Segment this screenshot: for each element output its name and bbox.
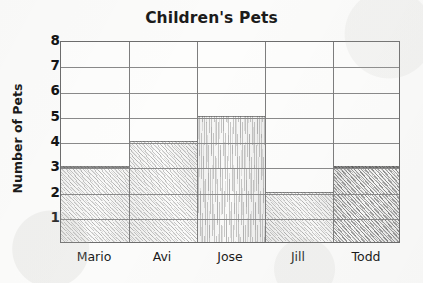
gridline-x-2 (197, 42, 198, 242)
gridline-y-6 (61, 93, 399, 94)
y-tick-2: 2 (26, 184, 60, 200)
y-tick-1: 1 (26, 209, 60, 225)
x-tick-label-mario: Mario (60, 249, 128, 264)
gridline-x-3 (265, 42, 266, 242)
bar-jill[interactable] (265, 192, 333, 243)
y-tick-5: 5 (26, 108, 60, 124)
bar-todd-shade (333, 166, 400, 242)
x-tick-label-jill: Jill (264, 249, 332, 264)
y-tick-7: 7 (26, 57, 60, 73)
bar-jose[interactable] (197, 116, 265, 242)
y-tick-8: 8 (26, 32, 60, 48)
gridline-x-4 (333, 42, 334, 242)
x-tick-label-jose: Jose (196, 249, 264, 264)
y-tick-3: 3 (26, 158, 60, 174)
plot-area (60, 41, 400, 243)
gridline-y-3 (61, 168, 399, 169)
chart-title: Children's Pets (0, 9, 423, 27)
gridline-x-1 (129, 42, 130, 242)
x-tick-label-todd: Todd (332, 249, 400, 264)
gridline-y-5 (61, 118, 399, 119)
x-tick-label-avi: Avi (128, 249, 196, 264)
gridline-y-2 (61, 194, 399, 195)
bar-todd[interactable] (333, 166, 400, 242)
y-tick-6: 6 (26, 82, 60, 98)
bar-jose-shade (197, 116, 265, 242)
gridline-y-1 (61, 219, 399, 220)
bar-avi-shade (129, 141, 197, 242)
y-tick-4: 4 (26, 133, 60, 149)
bar-mario-shade (61, 166, 129, 242)
bar-jill-shade (265, 192, 333, 243)
gridline-y-4 (61, 143, 399, 144)
bar-mario[interactable] (61, 166, 129, 242)
gridline-y-7 (61, 67, 399, 68)
bar-avi[interactable] (129, 141, 197, 242)
